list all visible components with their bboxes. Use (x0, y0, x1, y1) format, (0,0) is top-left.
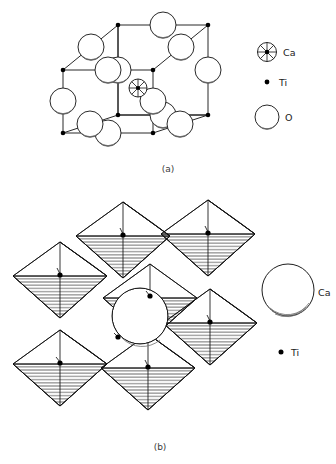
o-sphere (195, 57, 221, 83)
o-sphere (168, 34, 194, 60)
o-sphere (95, 57, 121, 83)
legend-label-o: O (285, 112, 292, 123)
o-sphere (77, 111, 103, 137)
o-sphere (167, 111, 193, 137)
o-sphere (78, 34, 104, 60)
legend-label-ti: Ti (278, 77, 287, 88)
o-sphere (50, 88, 76, 114)
legend-label-ca: Ca (283, 47, 295, 58)
legend-label-ti: Ti (290, 347, 299, 358)
o-sphere (150, 12, 176, 38)
legend-label-ca: Ca (318, 287, 330, 298)
ca-atom-panel-a (129, 79, 147, 97)
perovskite-figure: Ca Ti O (a) (0, 0, 336, 464)
figure-root: Ca Ti O (a) (0, 0, 336, 464)
caption-panel-b: (b) (154, 442, 167, 452)
caption-panel-a: (a) (162, 164, 175, 174)
